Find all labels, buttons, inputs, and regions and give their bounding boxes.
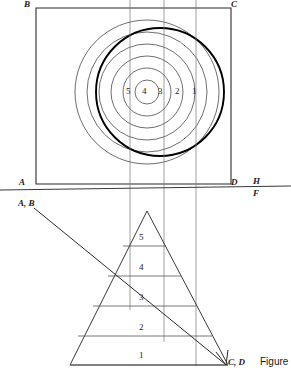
elevation-contour-label-1: 1 bbox=[139, 351, 144, 360]
plan-corner-label-c: C bbox=[231, 0, 237, 9]
cutting-plane-edge bbox=[34, 208, 225, 364]
elevation-contour-label-4: 4 bbox=[139, 263, 144, 272]
elevation-contour-label-3: 3 bbox=[139, 293, 144, 302]
contour-circle-4 bbox=[111, 56, 183, 128]
figure-container: B C A D H F 5 4 3 2 1 A, B C, D 5 4 3 2 … bbox=[0, 0, 291, 377]
hf-line bbox=[0, 186, 291, 190]
contour-circle-apex bbox=[135, 80, 159, 104]
hf-reference-line bbox=[0, 186, 291, 190]
elevation-cut-line bbox=[34, 208, 228, 365]
elevation-cut-end-label: C, D bbox=[228, 358, 245, 367]
elevation-contour-label-5: 5 bbox=[139, 233, 144, 242]
plan-contour-label-4: 4 bbox=[142, 87, 147, 96]
reference-line-label-f: F bbox=[253, 189, 259, 198]
plan-contour-label-2: 2 bbox=[175, 87, 180, 96]
plan-contour-label-1: 1 bbox=[192, 87, 197, 96]
contour-circle-2 bbox=[87, 32, 207, 152]
figure-caption: Figure bbox=[260, 357, 288, 367]
elevation-triangle-outline bbox=[70, 211, 228, 365]
contour-circle-3 bbox=[99, 44, 195, 140]
elevation-triangle bbox=[70, 211, 228, 365]
plan-contour-label-3: 3 bbox=[158, 87, 163, 96]
reference-line-label-h: H bbox=[253, 177, 260, 186]
projection-lines bbox=[130, 0, 196, 366]
technical-drawing-canvas bbox=[0, 0, 291, 377]
plan-corner-label-a: A bbox=[19, 178, 25, 187]
plan-corner-label-d: D bbox=[231, 178, 238, 187]
plan-corner-label-b: B bbox=[24, 0, 30, 9]
elevation-cut-start-label: A, B bbox=[18, 199, 35, 208]
elevation-contour-label-2: 2 bbox=[139, 323, 144, 332]
plan-contour-label-5: 5 bbox=[126, 87, 131, 96]
